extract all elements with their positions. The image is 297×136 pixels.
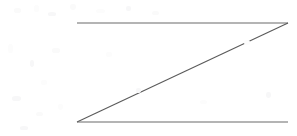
drawing-canvas: Z-shaped line drawing — [0, 0, 297, 136]
diagonal-line — [77, 23, 288, 122]
z-figure: Z-shaped line drawing — [0, 0, 297, 136]
